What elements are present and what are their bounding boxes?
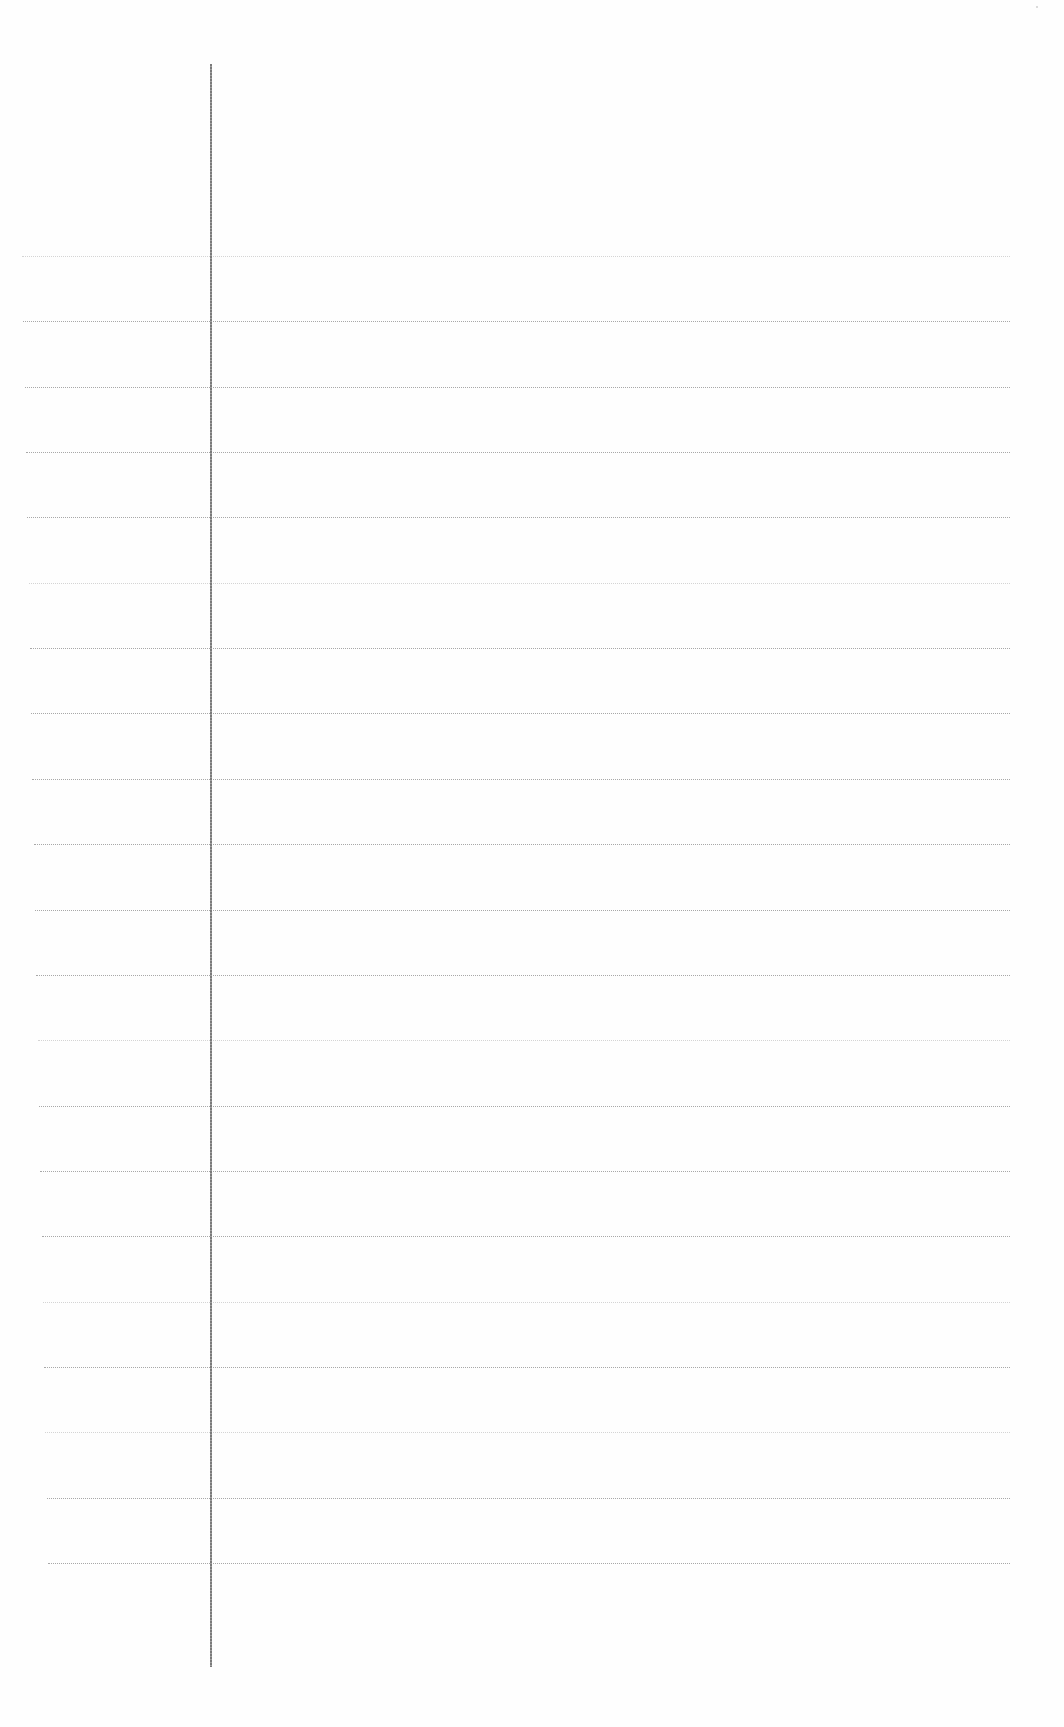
ruled-line — [45, 1432, 1010, 1433]
ruled-line — [44, 1367, 1010, 1368]
ruled-line — [29, 583, 1010, 584]
ruled-line — [27, 517, 1010, 518]
ruled-line — [23, 321, 1010, 322]
ruled-line — [34, 844, 1010, 845]
ruled-line — [30, 648, 1010, 649]
ruled-line — [42, 1236, 1010, 1237]
ruled-line — [36, 975, 1010, 976]
margin-line — [210, 64, 212, 1667]
ruled-line — [39, 1106, 1010, 1107]
ruled-line — [48, 1563, 1010, 1564]
ruled-line — [38, 1040, 1010, 1041]
ruled-line — [47, 1498, 1010, 1499]
ruled-line — [25, 387, 1010, 388]
ruled-line — [40, 1171, 1010, 1172]
ruled-line — [43, 1302, 1010, 1303]
scan-mark — [1036, 6, 1038, 8]
ruled-line — [26, 452, 1010, 453]
ruled-line — [22, 256, 1010, 257]
ruled-line — [32, 779, 1010, 780]
notebook-page — [0, 0, 1064, 1727]
ruled-line — [31, 713, 1010, 714]
ruled-line — [35, 910, 1010, 911]
